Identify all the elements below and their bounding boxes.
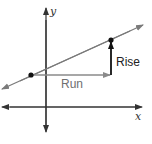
point-1 bbox=[28, 72, 33, 77]
slope-diagram: y x Run Rise bbox=[0, 0, 152, 144]
y-axis-label: y bbox=[49, 5, 57, 18]
point-2 bbox=[108, 37, 113, 42]
x-axis-label: x bbox=[135, 110, 142, 123]
run-label: Run bbox=[61, 77, 83, 91]
rise-label: Rise bbox=[116, 55, 140, 69]
